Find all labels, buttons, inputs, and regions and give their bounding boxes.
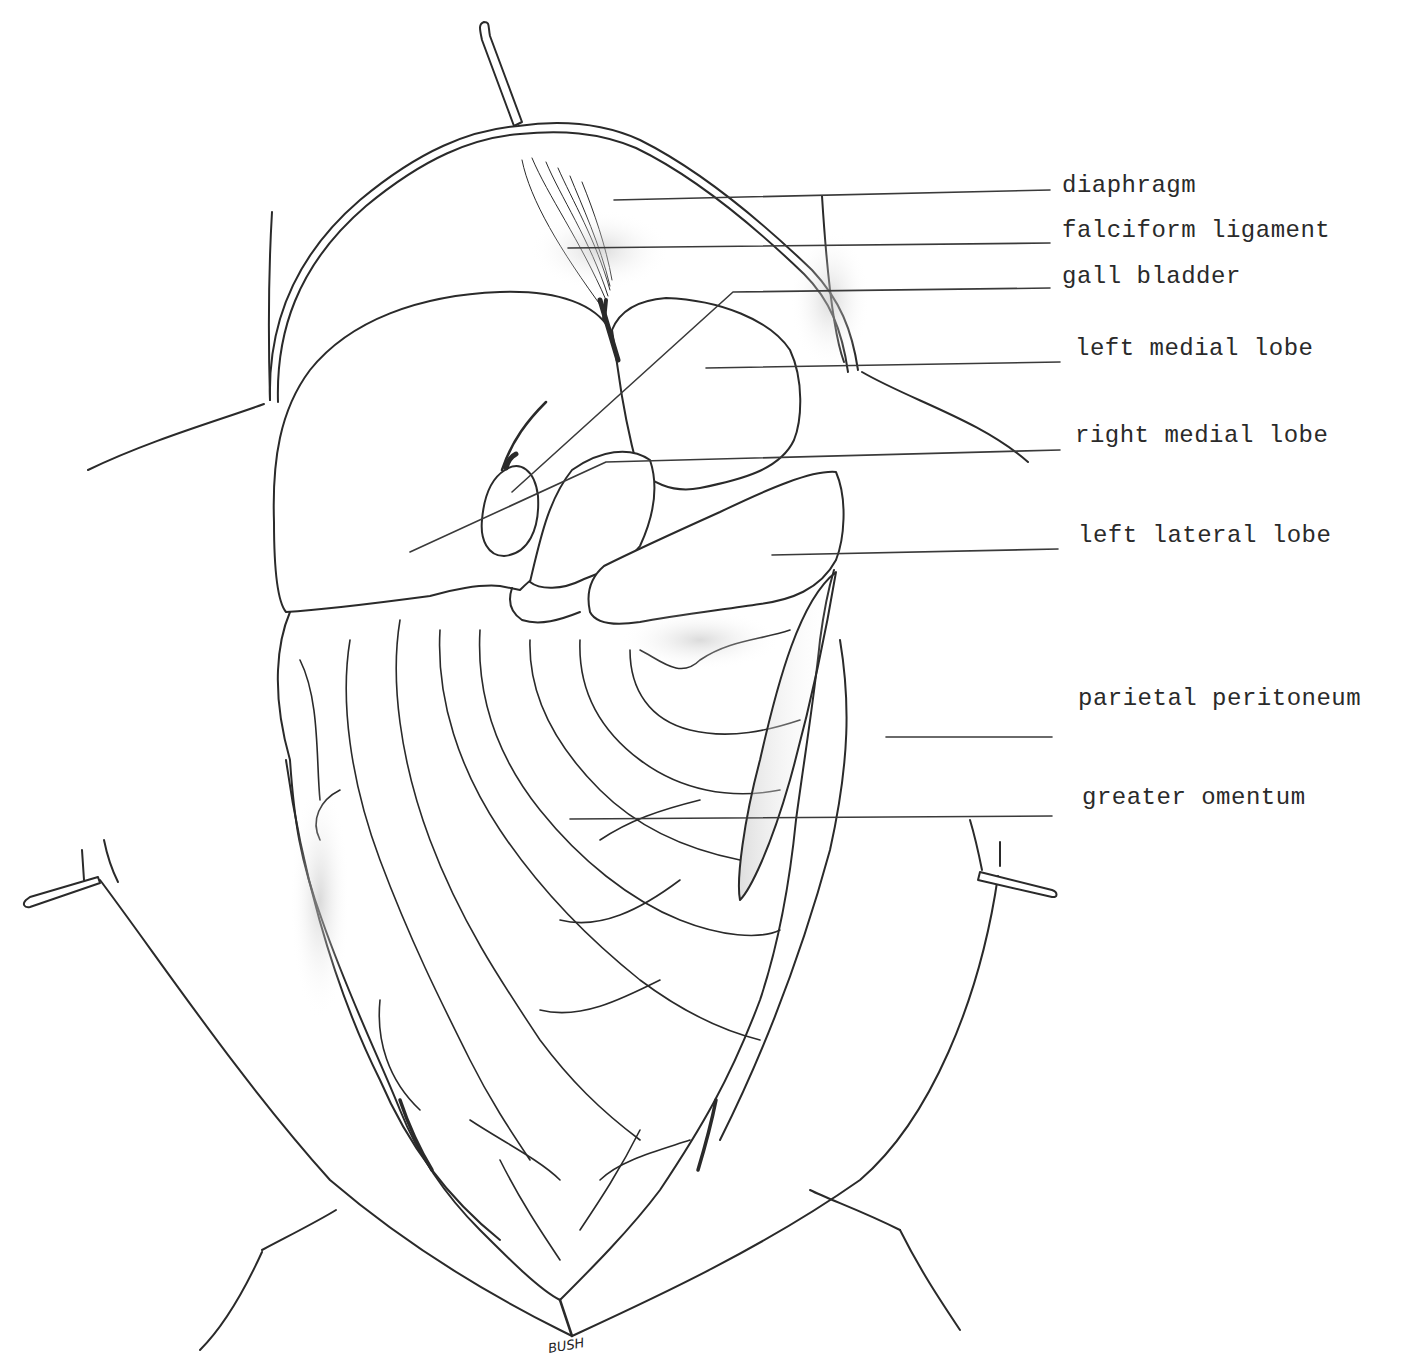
label-left-lateral-lobe: left lateral lobe	[1078, 522, 1331, 550]
top-retractor-pin-icon	[480, 22, 522, 126]
leader-diaphragm	[614, 190, 1050, 200]
label-right-medial-lobe: right medial lobe	[1075, 422, 1328, 450]
label-diaphragm: diaphragm	[1062, 172, 1196, 200]
right-retractor-pin-icon	[970, 820, 1057, 897]
omentum-folds	[300, 620, 800, 1260]
label-left-medial-lobe: left medial lobe	[1075, 335, 1313, 363]
label-gall-bladder: gall bladder	[1062, 263, 1241, 291]
label-greater-omentum: greater omentum	[1082, 784, 1306, 812]
left-retractor-pin-icon	[24, 840, 118, 907]
label-falciform-ligament: falciform ligament	[1062, 217, 1330, 245]
illustration-stage: diaphragm falciform ligament gall bladde…	[0, 0, 1403, 1369]
label-parietal-peritoneum: parietal peritoneum	[1078, 685, 1361, 713]
